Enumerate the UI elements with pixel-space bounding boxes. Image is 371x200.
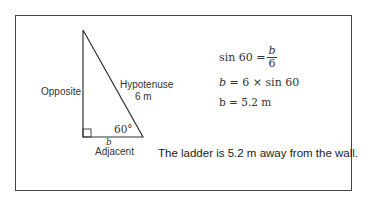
hypotenuse-length: 6 m	[135, 91, 152, 102]
equation-lhs: sin 60 =	[219, 51, 265, 64]
equation-variable: b	[219, 76, 226, 89]
hypotenuse-label: Hypotenuse	[120, 79, 173, 90]
fraction: b6	[267, 45, 276, 70]
equation-sine-ratio: sin 60 =b6	[219, 45, 277, 70]
equation-result: b = 5.2 m	[219, 96, 271, 108]
right-angle-marker	[83, 129, 91, 137]
opposite-label: Opposite	[41, 86, 81, 97]
equation-solve-b: b = 6 × sin 60	[219, 76, 299, 89]
fraction-denominator: 6	[267, 58, 276, 70]
right-triangle	[0, 0, 371, 200]
conclusion-text: The ladder is 5.2 m away from the wall.	[158, 147, 358, 159]
equation-rhs: = 6 × sin 60	[230, 76, 300, 89]
angle-label: 60°	[114, 123, 133, 135]
adjacent-label: Adjacent	[95, 146, 134, 157]
